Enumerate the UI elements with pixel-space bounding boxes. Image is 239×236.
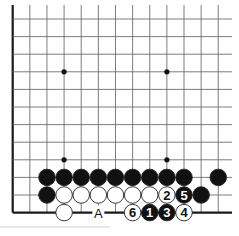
white-stone: 6 [124,204,141,221]
white-stone [56,187,73,204]
star-point-icon [61,69,66,74]
black-stone: 3 [159,204,176,221]
white-stone [90,187,107,204]
black-stone [193,187,210,204]
white-stone [56,204,73,221]
black-stone [73,169,90,186]
star-point-icon [61,157,66,162]
black-stone: 1 [141,204,158,221]
move-number-label: 4 [180,205,188,220]
move-number-label: 1 [146,205,153,220]
black-stone [210,169,227,186]
white-stone [73,187,90,204]
black-stone [107,169,124,186]
point-marker-A: A [92,206,104,221]
star-point-icon [164,69,169,74]
black-stone [39,169,56,186]
white-stone [124,187,141,204]
star-point-icon [164,157,169,162]
point-markers: A [92,206,104,221]
black-stone [141,169,158,186]
black-stone [56,169,73,186]
move-number-label: 3 [163,205,170,220]
black-stone [39,187,56,204]
move-number-label: 2 [163,188,170,203]
go-board-diagram: 256134 A [0,0,239,236]
black-stone [124,169,141,186]
white-stone [107,187,124,204]
black-stone [159,169,176,186]
black-stone [90,169,107,186]
white-stone: 4 [176,204,193,221]
black-stone: 5 [176,187,193,204]
white-stone: 2 [159,187,176,204]
black-stone [176,169,193,186]
move-number-label: 6 [129,205,136,220]
white-stone [141,187,158,204]
move-number-label: 5 [180,188,187,203]
svg-text:A: A [94,206,103,221]
